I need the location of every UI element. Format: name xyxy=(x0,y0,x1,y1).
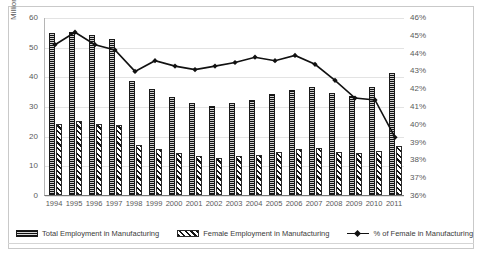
line-marker-2006 xyxy=(292,53,297,58)
diagonal-hatch-swatch xyxy=(177,230,199,237)
y-tick-right: 40% xyxy=(410,121,440,129)
legend-item-1[interactable]: Total Employment in Manufacturing xyxy=(16,229,159,238)
legend-label: % of Female in Manufacturing xyxy=(373,229,473,238)
legend-label: Female Employment in Manufacturing xyxy=(203,229,329,238)
y-tick-right: 43% xyxy=(410,67,440,75)
y-tick-right: 36% xyxy=(410,192,440,200)
y-tick-left: 20 xyxy=(16,133,38,141)
y-tick-left: 50 xyxy=(16,44,38,52)
y-tick-right: 38% xyxy=(410,156,440,164)
y-tick-right: 41% xyxy=(410,103,440,111)
y-tick-left: 60 xyxy=(16,14,38,22)
line-marker-2005 xyxy=(272,58,277,63)
y-tick-left: 10 xyxy=(16,162,38,170)
line-series-percent-female xyxy=(45,18,405,196)
line-marker-2003 xyxy=(232,60,237,65)
y-tick-right: 44% xyxy=(410,50,440,58)
plot-area xyxy=(44,18,404,196)
x-tick-2011: 2011 xyxy=(381,199,407,208)
gridline xyxy=(45,196,404,197)
line-marker-2002 xyxy=(212,64,217,69)
line-marker-2001 xyxy=(192,67,197,72)
vertical-hatch-swatch xyxy=(16,230,38,237)
y-tick-left: 30 xyxy=(16,103,38,111)
legend-divider xyxy=(8,243,474,244)
chart-legend: Total Employment in ManufacturingFemale … xyxy=(16,226,468,240)
line-marker-2004 xyxy=(252,55,257,60)
y-tick-right: 39% xyxy=(410,139,440,147)
y-tick-left: 0 xyxy=(16,192,38,200)
y-tick-right: 46% xyxy=(410,14,440,22)
y-tick-left: 40 xyxy=(16,73,38,81)
line-marker-2000 xyxy=(172,64,177,69)
y-tick-right: 37% xyxy=(410,174,440,182)
legend-label: Total Employment in Manufacturing xyxy=(42,229,159,238)
legend-item-3[interactable]: % of Female in Manufacturing xyxy=(347,229,473,238)
y-tick-right: 45% xyxy=(410,32,440,40)
chart-figure: Million 0102030405060 36%37%38%39%40%41%… xyxy=(0,0,483,257)
line-marker-swatch xyxy=(347,230,369,237)
legend-item-2[interactable]: Female Employment in Manufacturing xyxy=(177,229,329,238)
y-tick-right: 42% xyxy=(410,85,440,93)
